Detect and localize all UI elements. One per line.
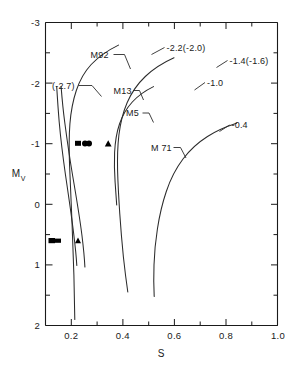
y-tick-label: 0 [34, 199, 40, 210]
y-tick-label: -2 [31, 78, 40, 89]
marker-triangle [105, 140, 112, 146]
x-axis-ticks-top [71, 23, 252, 30]
x-tick-label: 1.0 [271, 330, 285, 341]
label-minus-2-7: (-2.7) [52, 81, 75, 91]
curve-minus-2-2 [69, 45, 118, 319]
marker-square [49, 238, 56, 243]
figure-container: -3 -2 -1 0 1 2 0.2 0.4 0.6 0.8 1.0 M V S [0, 0, 294, 376]
marker-square [75, 141, 81, 146]
x-tick-labels: 0.2 0.4 0.6 0.8 1.0 [64, 330, 285, 341]
y-tick-label: 2 [34, 320, 40, 331]
y-tick-label: -1 [31, 138, 40, 149]
x-tick-label: 0.6 [167, 330, 181, 341]
label-minus-2-2: -2.2(-2.0) [167, 43, 206, 53]
x-tick-label: 0.4 [116, 330, 130, 341]
x-axis-ticks [71, 319, 277, 326]
y-axis-title-subscript: V [21, 175, 26, 182]
marker-square [55, 239, 61, 243]
y-axis-title: M [12, 168, 20, 179]
leader-minus-0-4 [220, 125, 230, 132]
x-axis-title: S [158, 348, 165, 359]
curve-minus-1-0 [114, 87, 153, 205]
y-tick-label: 1 [34, 259, 40, 270]
label-minus-1-4: -1.4(-1.6) [230, 56, 269, 66]
scatter-line-plot: -3 -2 -1 0 1 2 0.2 0.4 0.6 0.8 1.0 M V S [0, 0, 294, 376]
label-minus-0-4: -0.4 [232, 120, 248, 130]
leader-lines-group [79, 48, 230, 159]
leader-m71 [174, 148, 187, 159]
leader-minus-1-0 [195, 83, 206, 91]
label-m92: M92 [91, 50, 109, 60]
leader-minus-2-7 [79, 86, 102, 97]
leader-m5 [143, 113, 154, 123]
label-m13: M13 [114, 86, 132, 96]
x-tick-label: 0.2 [64, 330, 78, 341]
marker-triangle [75, 238, 81, 244]
leader-minus-2-2 [152, 48, 165, 55]
data-markers-group [49, 140, 112, 243]
label-m5: M5 [126, 108, 139, 118]
x-tick-label: 0.8 [219, 330, 233, 341]
leader-m13 [133, 91, 144, 101]
y-axis-ticks [46, 23, 53, 326]
y-tick-label: -3 [31, 17, 40, 28]
plot-frame [46, 23, 278, 326]
leader-minus-1-4 [217, 61, 228, 68]
y-axis-ticks-right [271, 23, 278, 326]
curve-labels-group: -2.2(-2.0) -1.4(-1.6) -1.0 -0.4 (-2.7) [52, 43, 269, 131]
y-tick-labels: -3 -2 -1 0 1 2 [31, 17, 40, 331]
label-m71: M 71 [151, 143, 172, 153]
leader-m92 [114, 55, 131, 70]
marker-circle [86, 141, 92, 147]
label-minus-1-0: -1.0 [207, 78, 223, 88]
